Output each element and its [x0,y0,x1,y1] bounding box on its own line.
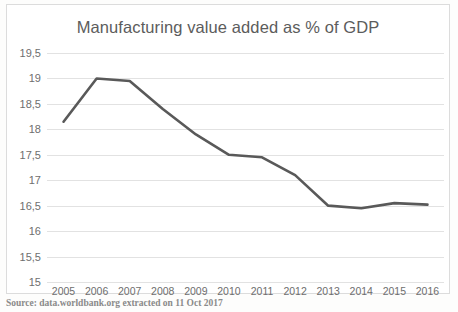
x-axis-tick-label: 2012 [283,285,306,297]
x-axis-tick-label: 2010 [217,285,240,297]
y-axis-tick-label: 15 [29,276,41,288]
x-axis-tick-label: 2008 [151,285,174,297]
chart-title: Manufacturing value added as % of GDP [7,18,449,37]
chart-frame: Manufacturing value added as % of GDP 19… [6,4,450,294]
y-axis-tick-label: 15,5 [20,251,41,263]
y-axis-tick-label: 19 [29,72,41,84]
y-axis-labels: 19,51918,51817,51716,51615,515 [7,53,41,282]
y-axis-tick-label: 18,5 [20,98,41,110]
x-axis-tick-label: 2009 [184,285,207,297]
x-axis-tick-label: 2016 [416,285,439,297]
x-axis-tick-label: 2006 [85,285,108,297]
x-axis-tick-label: 2007 [118,285,141,297]
y-axis-tick-label: 16 [29,225,41,237]
y-axis-tick-label: 18 [29,123,41,135]
x-axis-tick-label: 2013 [317,285,340,297]
source-note: Source: data.worldbank.org extracted on … [6,298,223,308]
scanned-page-background: Manufacturing value added as % of GDP 19… [0,0,458,312]
x-axis-tick-label: 2014 [350,285,373,297]
y-axis-tick-label: 16,5 [20,200,41,212]
y-axis-tick-label: 17,5 [20,149,41,161]
y-axis-tick-label: 19,5 [20,47,41,59]
x-axis-tick-label: 2011 [251,285,274,297]
x-axis-tick-label: 2005 [52,285,75,297]
gridline [47,282,444,283]
y-axis-tick-label: 17 [29,174,41,186]
x-axis-tick-label: 2015 [383,285,406,297]
line-series [47,53,444,282]
plot-area [47,53,444,282]
